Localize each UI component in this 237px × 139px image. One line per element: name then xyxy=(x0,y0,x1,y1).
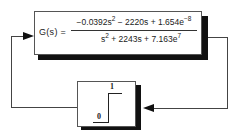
tf-numerator: −0.0392s2 − 2220s + 1.654e−8 xyxy=(71,15,197,29)
step-low-segment xyxy=(93,122,108,123)
output-wire-left-vertical xyxy=(11,36,12,108)
step-block[interactable]: 0 1 xyxy=(77,81,136,127)
step-high-segment xyxy=(108,93,122,94)
step-input-arrow-icon xyxy=(143,104,154,112)
tf-denominator: s2 + 2243s + 7.163e7 xyxy=(71,32,197,46)
feedback-wire-bottom-horizontal xyxy=(150,108,228,109)
step-rise-segment xyxy=(108,93,109,123)
tf-fraction: −0.0392s2 − 2220s + 1.654e−8 s2 + 2243s … xyxy=(71,15,197,46)
tf-input-arrow-icon xyxy=(23,32,34,40)
feedback-wire-right-vertical xyxy=(227,37,228,109)
fraction-bar xyxy=(71,30,197,31)
step-low-label: 0 xyxy=(97,112,101,121)
step-high-label: 1 xyxy=(110,82,114,91)
output-wire-left-horizontal xyxy=(11,107,77,108)
transfer-function-block[interactable]: G(s) = −0.0392s2 − 2220s + 1.654e−8 s2 +… xyxy=(34,11,202,55)
tf-lhs: G(s) = xyxy=(39,27,66,37)
